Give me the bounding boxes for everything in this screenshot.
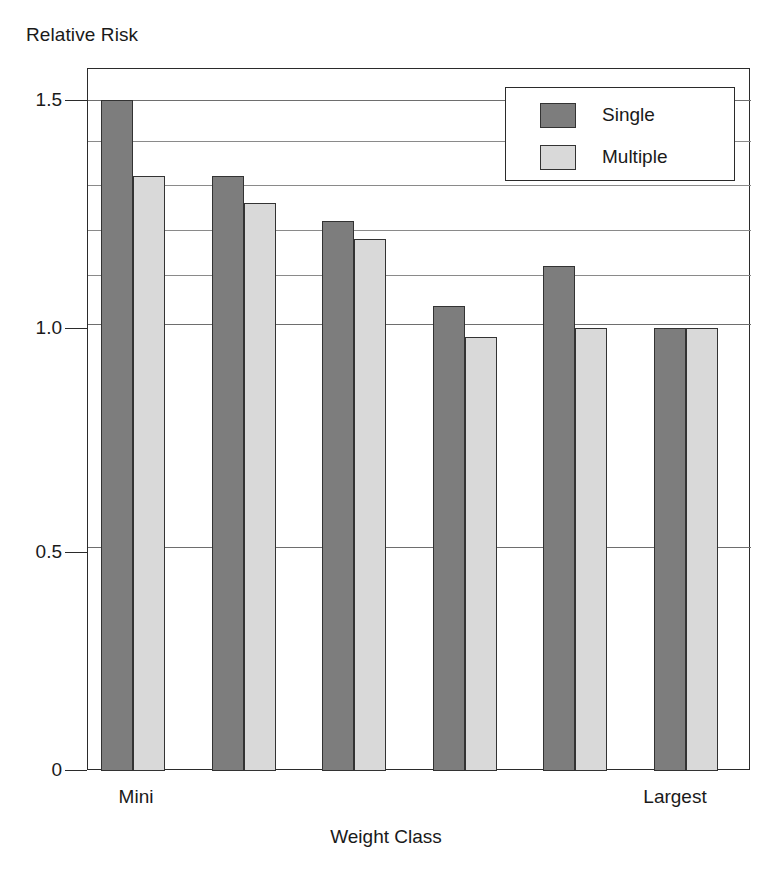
- y-tick-text: 0: [4, 760, 62, 779]
- y-tick-mark-0: [65, 770, 87, 771]
- legend-item-single[interactable]: Single: [506, 96, 736, 134]
- bar-single: [654, 328, 686, 771]
- legend-swatch-single-icon: [540, 103, 576, 128]
- y-tick-mark-1-0: [65, 328, 87, 329]
- y-tick-mark-0-5: [65, 552, 87, 553]
- x-axis-label-mini: Mini: [96, 786, 176, 808]
- relative-risk-bar-chart: Relative Risk 1.5 1.0 0.5 0 Single: [0, 0, 772, 875]
- legend-label-multiple: Multiple: [602, 146, 667, 168]
- legend: Single Multiple: [505, 87, 735, 181]
- legend-item-multiple[interactable]: Multiple: [506, 138, 736, 176]
- y-tick-text: 1.5: [4, 90, 62, 109]
- legend-swatch-multiple-icon: [540, 145, 576, 170]
- y-tick-text: 0.5: [4, 542, 62, 561]
- x-axis-title: Weight Class: [0, 826, 772, 848]
- bar-multiple: [686, 328, 718, 771]
- y-tick-text: 1.0: [4, 318, 62, 337]
- legend-label-single: Single: [602, 104, 655, 126]
- x-axis-label-largest: Largest: [620, 786, 730, 808]
- y-axis-title: Relative Risk: [26, 24, 138, 46]
- y-tick-mark-1-5: [65, 100, 87, 101]
